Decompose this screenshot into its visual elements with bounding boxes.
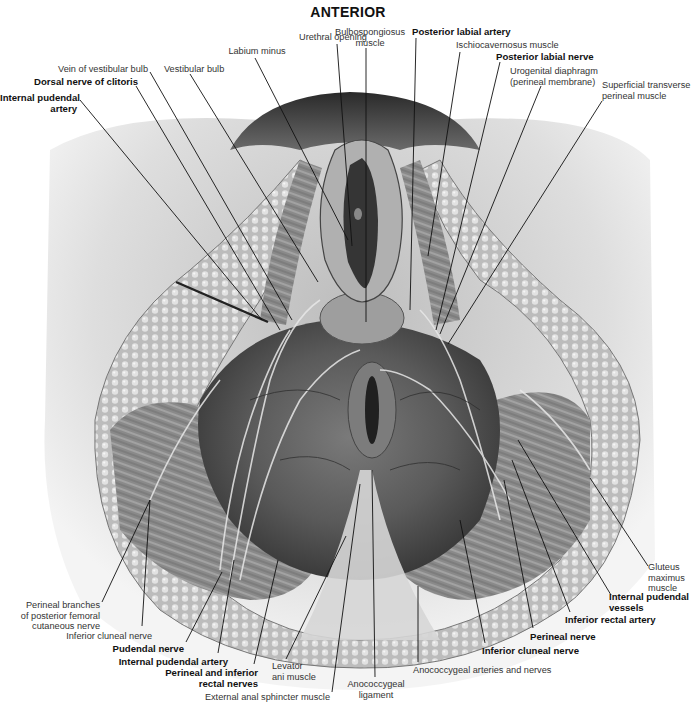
label-line: Posterior labial nerve <box>496 52 606 63</box>
label-line: Dorsal nerve of clitoris <box>14 77 138 88</box>
label-line: (perineal membrane) <box>510 77 614 88</box>
anal-opening <box>365 376 379 444</box>
label-line: Labium minus <box>222 46 292 57</box>
label-line: Internal pudendal <box>609 592 696 603</box>
label-line: Vein of vestibular bulb <box>36 64 148 75</box>
label-internal-pudendal-artery-top: Internal pudendalartery <box>0 93 77 114</box>
perineum-illustration <box>0 0 696 718</box>
label-line: Inferior rectal artery <box>565 615 677 626</box>
label-external-anal-sphincter-muscle: External anal sphincter muscle <box>200 692 330 703</box>
label-line: Vestibular bulb <box>164 64 240 75</box>
label-vestibular-bulb: Vestibular bulb <box>164 64 240 75</box>
label-line: ligament <box>346 690 406 701</box>
label-bulbospongiosus-muscle: Bulbospongiosusmuscle <box>330 27 410 48</box>
label-internal-pudendal-vessels: Internal pudendalvessels <box>609 592 696 613</box>
label-pudendal-nerve: Pudendal nerve <box>108 644 184 655</box>
label-line: Superficial transverse <box>602 80 696 91</box>
label-internal-pudendal-artery-bottom: Internal pudendal artery <box>106 657 228 668</box>
label-line: Anococcygeal arteries and nerves <box>413 665 563 676</box>
label-inferior-cluneal-nerve-right: Inferior cluneal nerve <box>482 646 592 657</box>
label-line: Perineal branches <box>12 600 100 611</box>
label-line: of posterior femoral <box>12 611 100 622</box>
label-anococcygeal-arteries-and-nerves: Anococcygeal arteries and nerves <box>413 665 563 676</box>
label-line: maximus <box>648 573 696 584</box>
label-line: Inferior cluneal nerve <box>60 631 152 642</box>
urethral-orifice <box>354 208 362 220</box>
label-posterior-labial-artery: Posterior labial artery <box>412 27 522 38</box>
label-dorsal-nerve-of-clitoris: Dorsal nerve of clitoris <box>14 77 138 88</box>
label-labium-minus: Labium minus <box>222 46 292 57</box>
label-line: muscle <box>330 38 410 49</box>
label-inferior-rectal-artery: Inferior rectal artery <box>565 615 677 626</box>
label-line: Ischiocavernosus muscle <box>456 40 576 51</box>
label-line: External anal sphincter muscle <box>200 692 330 703</box>
label-perineal-branches-of-posterior-femoral-cutaneous-nerve: Perineal branchesof posterior femoralcut… <box>12 600 100 632</box>
label-perineal-nerve: Perineal nerve <box>530 632 606 643</box>
label-line: Internal pudendal <box>0 93 77 104</box>
label-line: Perineal nerve <box>530 632 606 643</box>
label-line: perineal muscle <box>602 91 696 102</box>
label-ischiocavernosus-muscle: Ischiocavernosus muscle <box>456 40 576 51</box>
label-line: Inferior cluneal nerve <box>482 646 592 657</box>
label-line: Gluteus <box>648 562 696 573</box>
label-line: Posterior labial artery <box>412 27 522 38</box>
label-perineal-and-inferior-rectal-nerves: Perineal and inferiorrectal nerves <box>150 668 258 689</box>
label-line: rectal nerves <box>150 679 258 690</box>
label-line: Levator <box>272 661 328 672</box>
label-line: Perineal and inferior <box>150 668 258 679</box>
label-vein-of-vestibular-bulb: Vein of vestibular bulb <box>36 64 148 75</box>
label-levator-ani-muscle: Levatorani muscle <box>272 661 328 682</box>
label-urogenital-diaphragm: Urogenital diaphragm(perineal membrane) <box>510 66 614 87</box>
label-gluteus-maximus-muscle: Gluteusmaximusmuscle <box>648 562 696 594</box>
label-inferior-cluneal-nerve-left: Inferior cluneal nerve <box>60 631 152 642</box>
anatomy-figure: ANTERIOR <box>0 0 696 718</box>
label-line: Bulbospongiosus <box>330 27 410 38</box>
label-posterior-labial-nerve: Posterior labial nerve <box>496 52 606 63</box>
label-line: vessels <box>609 603 696 614</box>
label-line: ani muscle <box>272 672 328 683</box>
label-superficial-transverse-perineal-muscle: Superficial transverseperineal muscle <box>602 80 696 101</box>
label-line: artery <box>0 104 77 115</box>
label-line: Internal pudendal artery <box>106 657 228 668</box>
label-line: Anococcygeal <box>346 679 406 690</box>
label-line: Urogenital diaphragm <box>510 66 614 77</box>
label-anococcygeal-ligament: Anococcygealligament <box>346 679 406 700</box>
label-line: Pudendal nerve <box>108 644 184 655</box>
